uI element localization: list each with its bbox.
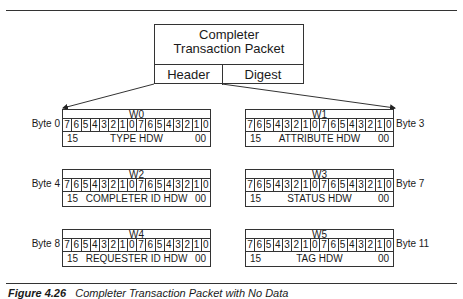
bit-cell: 3	[357, 179, 366, 191]
bit-high-index: 15	[250, 192, 261, 206]
bit-low-index: 00	[195, 132, 206, 146]
bit-cell: 6	[329, 239, 338, 251]
field-row: 15TYPE HDW00	[63, 132, 210, 146]
bit-cell: 7	[320, 119, 329, 131]
bit-cell: 5	[265, 179, 274, 191]
register-w4: W4765432107654321015REQUESTER ID HDW00	[62, 229, 211, 267]
register-w1: W1765432107654321015ATTRIBUTE HDW00	[245, 109, 394, 147]
bit-cell: 7	[137, 239, 146, 251]
register-w3: W3765432107654321015STATUS HDW00	[245, 169, 394, 207]
bit-cell: 1	[193, 119, 202, 131]
bit-cell: 5	[339, 239, 348, 251]
bit-cell: 5	[265, 119, 274, 131]
bit-cell: 2	[109, 119, 118, 131]
bit-cell: 1	[376, 119, 385, 131]
byte-offset-label: Byte 11	[396, 238, 429, 250]
byte-offset-label: Byte 7	[396, 178, 424, 190]
bit-low-index: 00	[378, 252, 389, 266]
bit-cell: 1	[376, 239, 385, 251]
bit-cell: 1	[376, 179, 385, 191]
bit-cell: 2	[109, 179, 118, 191]
bit-cell: 7	[246, 239, 255, 251]
bit-cell: 2	[292, 179, 301, 191]
bit-cell: 7	[320, 179, 329, 191]
bit-cell: 1	[119, 239, 128, 251]
bit-cell: 3	[100, 239, 109, 251]
bit-cell: 4	[91, 239, 100, 251]
bit-row: 7654321076543210	[246, 239, 393, 252]
bit-cell: 1	[302, 119, 311, 131]
bit-cell: 6	[72, 119, 81, 131]
bottom-rule	[6, 283, 457, 284]
bit-cell: 5	[156, 179, 165, 191]
bit-row: 7654321076543210	[63, 239, 210, 252]
bit-cell: 6	[329, 119, 338, 131]
bit-cell: 6	[255, 119, 264, 131]
bit-cell: 4	[274, 179, 283, 191]
bit-cell: 0	[311, 119, 320, 131]
field-name: REQUESTER ID HDW	[78, 252, 195, 266]
bit-high-index: 15	[250, 252, 261, 266]
field-row: 15COMPLETER ID HDW00	[63, 192, 210, 206]
bit-cell: 6	[329, 179, 338, 191]
bit-cell: 0	[128, 119, 137, 131]
bit-cell: 5	[156, 239, 165, 251]
register-name: W4	[63, 230, 210, 239]
bit-cell: 6	[72, 239, 81, 251]
bit-cell: 4	[274, 239, 283, 251]
bit-cell: 0	[385, 239, 393, 251]
bit-cell: 3	[283, 239, 292, 251]
bit-cell: 2	[183, 239, 192, 251]
caption-text: Completer Transaction Packet with No Dat…	[75, 287, 288, 299]
bit-cell: 3	[100, 179, 109, 191]
bit-cell: 0	[202, 119, 210, 131]
byte-offset-label: Byte 0	[32, 118, 60, 130]
bit-cell: 1	[119, 119, 128, 131]
bit-cell: 5	[339, 119, 348, 131]
bit-cell: 5	[82, 239, 91, 251]
bit-cell: 7	[63, 119, 72, 131]
register-w0: W0765432107654321015TYPE HDW00	[62, 109, 211, 147]
field-name: TAG HDW	[261, 252, 378, 266]
register-name: W3	[246, 170, 393, 179]
bit-cell: 3	[357, 239, 366, 251]
bit-cell: 2	[366, 239, 375, 251]
bit-cell: 3	[174, 179, 183, 191]
bit-cell: 0	[202, 179, 210, 191]
bit-cell: 2	[366, 119, 375, 131]
bit-cell: 0	[385, 119, 393, 131]
bit-cell: 2	[183, 179, 192, 191]
register-name: W1	[246, 110, 393, 119]
byte-offset-label: Byte 3	[396, 118, 424, 130]
bit-cell: 3	[283, 119, 292, 131]
bit-cell: 1	[119, 179, 128, 191]
bit-cell: 3	[100, 119, 109, 131]
bit-cell: 5	[265, 239, 274, 251]
bit-cell: 6	[72, 179, 81, 191]
field-row: 15REQUESTER ID HDW00	[63, 252, 210, 266]
bit-cell: 1	[193, 179, 202, 191]
bit-cell: 4	[91, 119, 100, 131]
bit-cell: 6	[255, 239, 264, 251]
bit-cell: 5	[156, 119, 165, 131]
bit-cell: 4	[348, 239, 357, 251]
bit-low-index: 00	[195, 252, 206, 266]
bit-cell: 6	[255, 179, 264, 191]
caption-label: Figure 4.26	[8, 287, 66, 299]
bit-high-index: 15	[67, 192, 78, 206]
field-row: 15TAG HDW00	[246, 252, 393, 266]
register-w5: W5765432107654321015TAG HDW00	[245, 229, 394, 267]
bit-cell: 6	[146, 179, 155, 191]
bit-cell: 5	[82, 179, 91, 191]
bit-cell: 7	[137, 119, 146, 131]
bit-cell: 2	[366, 179, 375, 191]
field-name: ATTRIBUTE HDW	[261, 132, 378, 146]
byte-offset-label: Byte 8	[32, 238, 60, 250]
bit-row: 7654321076543210	[246, 179, 393, 192]
bit-cell: 7	[320, 239, 329, 251]
figure-caption: Figure 4.26 Completer Transaction Packet…	[8, 287, 288, 299]
bit-high-index: 15	[67, 132, 78, 146]
bit-row: 7654321076543210	[246, 119, 393, 132]
bit-cell: 5	[339, 179, 348, 191]
bit-low-index: 00	[195, 192, 206, 206]
